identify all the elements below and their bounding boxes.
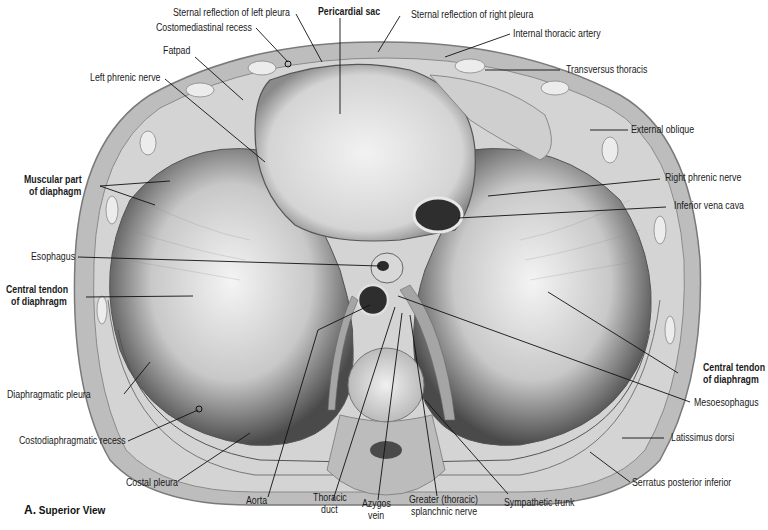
label-latissimus-dorsi: Latissimus dorsi — [671, 432, 734, 444]
label-costomediastinal-recess: Costomediastinal recess — [156, 22, 252, 34]
label-sternal-reflection-right-pleura: Sternal reflection of right pleura — [411, 9, 533, 21]
label-esophagus: Esophagus — [31, 251, 75, 263]
label-right-phrenic-nerve: Right phrenic nerve — [665, 172, 741, 184]
label-external-oblique: External oblique — [631, 124, 694, 136]
label-sternal-reflection-left-pleura: Sternal reflection of left pleura — [173, 7, 290, 19]
label-costal-pleura: Costal pleura — [126, 477, 178, 489]
label-fatpad: Fatpad — [163, 45, 190, 57]
label-diaphragmatic-pleura: Diaphragmatic pleura — [7, 389, 91, 401]
label-azygos-vein-line2: vein — [368, 510, 384, 522]
label-central-tendon-right-line2: of diaphragm — [703, 374, 759, 386]
label-aorta: Aorta — [246, 495, 267, 507]
label-pericardial-sac: Pericardial sac — [318, 6, 380, 18]
label-transversus-thoracis: Transversus thoracis — [566, 64, 647, 76]
aorta-vessel — [358, 285, 388, 315]
label-central-tendon-left-line2: of diaphragm — [11, 296, 67, 308]
label-costodiaphragmatic-recess: Costodiaphragmatic recess — [19, 435, 126, 447]
caption-letter: A. — [24, 503, 36, 517]
label-central-tendon-left-line1: Central tendon — [6, 284, 68, 296]
label-serratus-posterior-inferior: Serratus posterior inferior — [632, 477, 731, 489]
label-muscular-part-diaphragm-line2: of diaphagm — [29, 186, 81, 198]
label-azygos-vein-line1: Azygos — [362, 498, 391, 510]
vertebral-body — [348, 348, 424, 422]
label-thoracic-duct-line1: Thoracic — [313, 492, 347, 504]
caption-text: Superior View — [39, 505, 106, 516]
label-greater-splanchnic-nerve-line2: splanchnic nerve — [411, 506, 477, 518]
label-inferior-vena-cava: Inferior vena cava — [674, 200, 744, 212]
figure-caption: A. Superior View — [24, 503, 105, 517]
label-muscular-part-diaphragm-line1: Muscular part — [24, 174, 82, 186]
inferior-vena-cava-vessel — [414, 198, 462, 232]
label-greater-splanchnic-nerve-line1: Greater (thoracic) — [409, 494, 478, 506]
label-thoracic-duct-line2: duct — [321, 504, 338, 516]
label-internal-thoracic-artery: Internal thoracic artery — [513, 28, 601, 40]
label-sympathetic-trunk: Sympathetic trunk — [504, 497, 574, 509]
label-mesoesophagus: Mesoesophagus — [694, 397, 759, 409]
label-central-tendon-right-line1: Central tendon — [703, 362, 765, 374]
label-left-phrenic-nerve: Left phrenic nerve — [90, 72, 160, 84]
